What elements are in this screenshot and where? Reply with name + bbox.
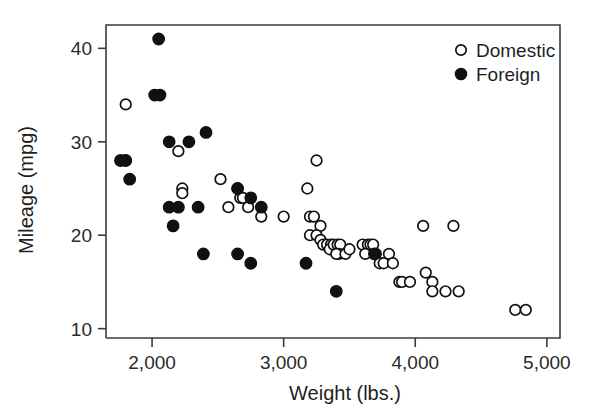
- y-tick-label: 20: [71, 225, 92, 246]
- y-tick-label: 40: [71, 38, 92, 59]
- legend-label-foreign: Foreign: [476, 64, 540, 85]
- x-tick-label: 2,000: [128, 352, 176, 373]
- scatter-plot-figure: 10203040 2,0003,0004,0005,000 Weight (lb…: [0, 0, 612, 420]
- data-point-domestic: [448, 221, 459, 232]
- legend-marker-domestic-icon: [456, 45, 466, 55]
- data-point-foreign: [192, 201, 203, 212]
- data-point-foreign: [163, 136, 174, 147]
- data-point-foreign: [300, 258, 311, 269]
- data-point-foreign: [154, 89, 165, 100]
- data-point-domestic: [510, 305, 521, 316]
- data-point-domestic: [278, 211, 289, 222]
- data-point-foreign: [153, 33, 164, 44]
- data-point-foreign: [369, 248, 380, 259]
- data-point-domestic: [388, 258, 399, 269]
- data-point-foreign: [331, 286, 342, 297]
- data-point-domestic: [453, 286, 464, 297]
- data-point-foreign: [232, 183, 243, 194]
- data-point-domestic: [215, 174, 226, 185]
- data-point-foreign: [245, 258, 256, 269]
- data-point-foreign: [200, 127, 211, 138]
- data-point-domestic: [120, 99, 131, 110]
- legend-marker-foreign-icon: [455, 68, 466, 79]
- x-tick-label: 3,000: [260, 352, 308, 373]
- data-point-domestic: [311, 155, 322, 166]
- data-point-foreign: [198, 248, 209, 259]
- y-axis-title: Mileage (mpg): [15, 126, 37, 254]
- data-point-domestic: [405, 277, 416, 288]
- data-point-foreign: [173, 201, 184, 212]
- y-tick-label: 10: [71, 319, 92, 340]
- data-point-foreign: [167, 220, 178, 231]
- x-axis-title: Weight (lbs.): [289, 382, 401, 404]
- data-point-domestic: [177, 188, 188, 199]
- data-point-foreign: [183, 136, 194, 147]
- data-point-foreign: [245, 192, 256, 203]
- data-point-domestic: [427, 286, 438, 297]
- data-point-foreign: [124, 173, 135, 184]
- data-point-domestic: [344, 244, 355, 255]
- data-point-foreign: [256, 201, 267, 212]
- data-point-domestic: [418, 221, 429, 232]
- data-point-domestic: [173, 146, 184, 157]
- data-point-domestic: [520, 305, 531, 316]
- chart-canvas: 10203040 2,0003,0004,0005,000 Weight (lb…: [0, 0, 612, 420]
- x-tick-label: 5,000: [523, 352, 571, 373]
- data-point-domestic: [302, 183, 313, 194]
- x-tick-label: 4,000: [391, 352, 439, 373]
- data-point-foreign: [120, 155, 131, 166]
- data-point-domestic: [440, 286, 451, 297]
- y-tick-label: 30: [71, 132, 92, 153]
- data-point-domestic: [223, 202, 234, 213]
- data-point-domestic: [420, 267, 431, 278]
- legend-label-domestic: Domestic: [476, 40, 555, 61]
- data-point-foreign: [232, 248, 243, 259]
- data-point-domestic: [309, 211, 320, 222]
